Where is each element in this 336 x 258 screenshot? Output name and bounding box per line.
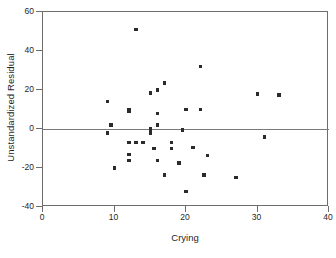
data-point xyxy=(156,112,159,115)
data-point xyxy=(191,146,194,149)
plot-area xyxy=(42,11,328,206)
y-axis-tick xyxy=(36,167,42,168)
data-point xyxy=(152,147,155,150)
data-point xyxy=(127,141,130,144)
data-point xyxy=(184,190,187,193)
data-point xyxy=(127,110,130,113)
y-axis-tick xyxy=(36,128,42,129)
data-point xyxy=(202,173,205,176)
data-point xyxy=(127,159,130,162)
y-axis-tick xyxy=(36,11,42,12)
data-point xyxy=(199,65,202,68)
data-point xyxy=(106,100,109,103)
y-axis-title-text: Unstandardized Residual xyxy=(5,53,16,161)
y-axis-tick-label: 60 xyxy=(6,7,34,16)
y-axis-tick-label: -20 xyxy=(6,163,34,172)
data-point xyxy=(177,161,180,164)
y-axis-tick-label: -40 xyxy=(6,202,34,211)
data-point xyxy=(277,93,280,96)
y-axis-tick xyxy=(36,50,42,51)
data-point xyxy=(263,135,266,138)
data-point xyxy=(163,81,166,84)
x-axis-tick-label: 30 xyxy=(245,213,269,222)
y-axis-title: Unstandardized Residual xyxy=(0,0,20,215)
x-axis-tick-label: 40 xyxy=(316,213,336,222)
data-point xyxy=(256,92,259,95)
y-axis-tick-label: 0 xyxy=(6,124,34,133)
y-axis-tick-label: 40 xyxy=(6,46,34,55)
data-point xyxy=(156,88,159,91)
x-axis-title: Crying xyxy=(42,232,328,243)
x-axis-tick-label: 0 xyxy=(30,213,54,222)
x-axis-tick-label: 20 xyxy=(173,213,197,222)
data-point xyxy=(127,153,130,156)
data-point xyxy=(134,141,137,144)
data-point xyxy=(206,154,209,157)
data-point xyxy=(149,131,152,134)
data-point xyxy=(184,108,187,111)
data-point xyxy=(149,91,152,94)
data-point xyxy=(149,127,152,130)
data-point xyxy=(141,141,144,144)
zero-reference-line xyxy=(43,129,329,130)
data-point xyxy=(106,131,109,134)
x-axis-tick-label: 10 xyxy=(102,213,126,222)
data-point xyxy=(113,166,116,169)
data-point xyxy=(170,147,173,150)
scatter-chart: Unstandardized Residual -40-200204060 01… xyxy=(0,0,336,258)
data-point xyxy=(156,123,159,126)
data-point xyxy=(163,173,166,176)
data-point xyxy=(199,108,202,111)
data-point xyxy=(109,123,112,126)
data-point xyxy=(181,128,184,131)
data-point xyxy=(170,141,173,144)
y-axis-tick xyxy=(36,89,42,90)
data-point xyxy=(234,176,237,179)
data-point xyxy=(156,159,159,162)
data-point xyxy=(134,28,137,31)
y-axis-tick-label: 20 xyxy=(6,85,34,94)
